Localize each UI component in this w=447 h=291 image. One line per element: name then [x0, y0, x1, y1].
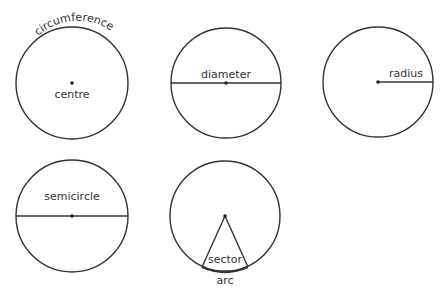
circumference-diagram: circumference centre: [16, 11, 128, 139]
semicircle-label: semicircle: [44, 190, 100, 203]
centre-point: [70, 81, 74, 85]
sector-label: sector: [208, 253, 243, 266]
radius-diagram: radius: [323, 27, 433, 137]
arc-label: arc: [216, 274, 233, 287]
centre-point: [376, 80, 380, 84]
diameter-label: diameter: [201, 68, 251, 81]
centre-point: [70, 214, 74, 218]
semicircle-diagram: semicircle: [16, 160, 128, 272]
arc-highlight: [202, 267, 248, 272]
radius-label: radius: [389, 67, 423, 80]
circle-parts-diagram: circumference centre diameter radius sem…: [0, 0, 447, 291]
centre-label: centre: [54, 88, 89, 101]
circumference-label: circumference: [32, 11, 117, 39]
sector-diagram: sector arc: [170, 161, 280, 287]
centre-point: [223, 214, 227, 218]
diameter-diagram: diameter: [171, 28, 281, 138]
centre-point: [224, 81, 228, 85]
